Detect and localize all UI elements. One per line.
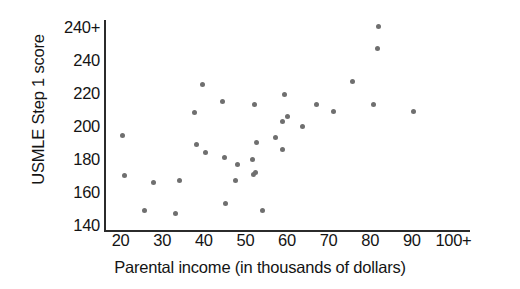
x-axis-tick-labels: 2030405060708090100+ <box>0 232 520 254</box>
x-tick-label: 50 <box>237 232 255 249</box>
data-point <box>280 119 285 124</box>
x-tick-label: 20 <box>112 232 130 249</box>
data-point <box>285 114 290 119</box>
y-tick-label: 200 <box>42 118 100 135</box>
data-point <box>411 109 416 114</box>
data-point <box>122 173 127 178</box>
data-point <box>192 110 197 115</box>
y-tick-label: 180 <box>42 151 100 168</box>
x-tick-label: 70 <box>320 232 338 249</box>
x-tick-label: 60 <box>278 232 296 249</box>
y-tick-label: 240+ <box>42 19 100 36</box>
data-point <box>233 178 238 183</box>
data-point <box>194 142 199 147</box>
data-point <box>282 92 287 97</box>
data-point <box>300 124 305 129</box>
data-point <box>314 102 319 107</box>
plot-area <box>104 20 470 232</box>
data-point <box>151 180 156 185</box>
data-point <box>376 24 381 29</box>
data-point <box>177 178 182 183</box>
data-point <box>200 82 205 87</box>
data-point <box>375 46 380 51</box>
data-point <box>203 150 208 155</box>
data-point <box>235 162 240 167</box>
y-tick-label: 220 <box>42 85 100 102</box>
data-point <box>254 140 259 145</box>
x-tick-label: 100+ <box>435 232 471 249</box>
y-tick-label: 240 <box>42 52 100 69</box>
data-point <box>273 135 278 140</box>
data-point <box>371 102 376 107</box>
data-point <box>142 208 147 213</box>
data-point <box>222 155 227 160</box>
data-point <box>253 170 258 175</box>
data-point <box>260 208 265 213</box>
data-point <box>280 147 285 152</box>
x-tick-label: 30 <box>153 232 171 249</box>
y-tick-label: 160 <box>42 184 100 201</box>
data-point <box>220 99 225 104</box>
data-point <box>250 157 255 162</box>
y-axis-line <box>104 20 106 232</box>
scatter-plot-figure: USMLE Step 1 score 140160180200220240240… <box>0 0 520 289</box>
x-axis-title: Parental income (in thousands of dollars… <box>0 258 520 277</box>
x-tick-label: 40 <box>195 232 213 249</box>
x-tick-label: 90 <box>403 232 421 249</box>
data-point <box>252 102 257 107</box>
data-point <box>223 201 228 206</box>
x-tick-label: 80 <box>361 232 379 249</box>
data-point <box>120 133 125 138</box>
data-point <box>173 211 178 216</box>
data-point <box>331 109 336 114</box>
data-point <box>350 79 355 84</box>
